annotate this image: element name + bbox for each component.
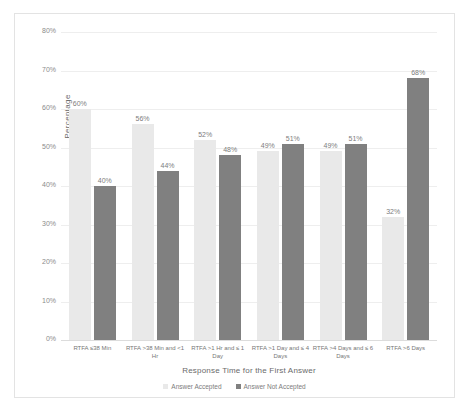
bar-value-label: 48% (223, 146, 237, 153)
legend-label: Answer Accepted (171, 383, 221, 390)
legend-swatch-icon (236, 384, 241, 389)
bar-answer-accepted[interactable]: 52% (194, 140, 216, 340)
plot-area: 80%70%60%50%40%30%20%10%0% 60%40%56%44%5… (61, 32, 437, 340)
y-axis-tick-label: 0% (46, 335, 56, 342)
bar-value-label: 60% (73, 100, 87, 107)
bar-group: 32%68% (374, 32, 437, 340)
bar-answer-accepted[interactable]: 56% (132, 124, 154, 340)
bar-group: 49%51% (312, 32, 375, 340)
legend-swatch-icon (163, 384, 168, 389)
bar-value-label: 56% (135, 115, 149, 122)
x-axis-tick-labels: RTFA ≤38 MinRTFA >38 Min and <1 HrRTFA >… (61, 344, 437, 360)
chart-legend: Answer AcceptedAnswer Not Accepted (15, 383, 454, 390)
x-axis-tick-label: RTFA >38 Min and <1 Hr (124, 344, 187, 360)
legend-item-answer-not-accepted[interactable]: Answer Not Accepted (236, 383, 306, 390)
bar-value-label: 49% (261, 142, 275, 149)
x-axis-tick-label: RTFA >6 Days (374, 344, 437, 360)
y-axis-tick-label: 30% (42, 220, 56, 227)
bar-value-label: 40% (98, 177, 112, 184)
y-axis-tick-label: 70% (42, 66, 56, 73)
bar-answer-accepted[interactable]: 49% (257, 151, 279, 340)
bar-value-label: 68% (411, 69, 425, 76)
bar-group: 60%40% (61, 32, 124, 340)
x-axis-tick-label: RTFA ≤38 Min (61, 344, 124, 360)
bar-answer-not-accepted[interactable]: 68% (407, 78, 429, 340)
y-axis-tick-label: 50% (42, 143, 56, 150)
bar-value-label: 49% (324, 142, 338, 149)
bar-value-label: 51% (349, 135, 363, 142)
bar-answer-not-accepted[interactable]: 48% (219, 155, 241, 340)
bar-answer-accepted[interactable]: 49% (320, 151, 342, 340)
x-axis-tick-label: RTFA >1 Hr and ≤ 1 Day (186, 344, 249, 360)
legend-item-answer-accepted[interactable]: Answer Accepted (163, 383, 221, 390)
y-axis-tick-label: 20% (42, 258, 56, 265)
bar-group: 52%48% (186, 32, 249, 340)
x-axis-tick-label: RTFA >1 Day and ≤ 4 Days (249, 344, 312, 360)
x-axis-title: Response Time for the First Answer (61, 366, 437, 375)
y-axis-tick-label: 10% (42, 297, 56, 304)
legend-label: Answer Not Accepted (244, 383, 306, 390)
bar-group: 56%44% (124, 32, 187, 340)
chart-figure: Percentage 80%70%60%50%40%30%20%10%0% 60… (14, 13, 455, 398)
y-axis-tick-label: 40% (42, 181, 56, 188)
bar-value-label: 32% (386, 208, 400, 215)
bar-answer-accepted[interactable]: 32% (382, 217, 404, 340)
x-axis-tick-label: RTFA >4 Days and ≤ 6 Days (312, 344, 375, 360)
y-axis-tick-label: 60% (42, 104, 56, 111)
bar-answer-not-accepted[interactable]: 40% (94, 186, 116, 340)
bar-answer-not-accepted[interactable]: 51% (282, 144, 304, 340)
bar-value-label: 52% (198, 131, 212, 138)
bar-value-label: 51% (286, 135, 300, 142)
bar-answer-accepted[interactable]: 60% (69, 109, 91, 340)
bars-layer: 60%40%56%44%52%48%49%51%49%51%32%68% (61, 32, 437, 340)
bar-value-label: 44% (160, 162, 174, 169)
y-axis-tick-label: 80% (42, 27, 56, 34)
bar-group: 49%51% (249, 32, 312, 340)
bar-answer-not-accepted[interactable]: 44% (157, 171, 179, 340)
x-axis-line (61, 340, 437, 341)
bar-answer-not-accepted[interactable]: 51% (345, 144, 367, 340)
